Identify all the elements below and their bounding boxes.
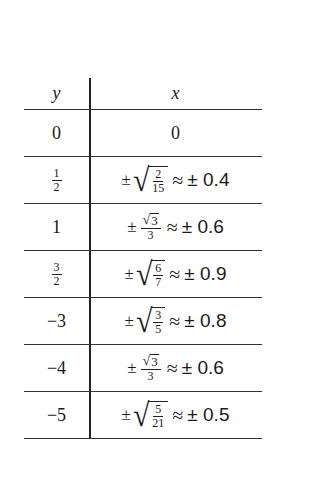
- y-value: 0: [24, 123, 89, 144]
- sqrt-expression: √521: [133, 400, 168, 430]
- x-value: ± √521 ≈ ± 0.5: [89, 400, 262, 430]
- value-table: y x 0 0 12 ± √215 ≈ ± 0.4 1 ± √33 ≈ ± 0.…: [24, 78, 262, 439]
- header-x: x: [89, 83, 262, 104]
- table-row: −5 ± √521 ≈ ± 0.5: [24, 392, 262, 439]
- y-value: 1: [24, 217, 89, 238]
- header-y: y: [24, 83, 89, 104]
- y-value: 32: [24, 261, 89, 287]
- table-row: 12 ± √215 ≈ ± 0.4: [24, 157, 262, 204]
- table-row: −3 ± √35 ≈ ± 0.8: [24, 298, 262, 345]
- fraction-expression: √33: [141, 354, 161, 382]
- sqrt-expression: √67: [136, 259, 165, 289]
- table-row: −4 ± √33 ≈ ± 0.6: [24, 345, 262, 392]
- x-value: ± √35 ≈ ± 0.8: [89, 306, 262, 336]
- table-row: 0 0: [24, 110, 262, 157]
- sqrt-expression: √215: [133, 165, 168, 195]
- header-row: y x: [24, 78, 262, 110]
- x-value: ± √33 ≈ ± 0.6: [89, 213, 262, 241]
- x-value: ± √67 ≈ ± 0.9: [89, 259, 262, 289]
- table-row: 1 ± √33 ≈ ± 0.6: [24, 204, 262, 251]
- x-value: 0: [89, 123, 262, 144]
- y-value: 12: [24, 167, 89, 193]
- table-row: 32 ± √67 ≈ ± 0.9: [24, 251, 262, 298]
- x-value: ± √33 ≈ ± 0.6: [89, 354, 262, 382]
- fraction-expression: √33: [141, 213, 161, 241]
- y-value: −4: [24, 358, 89, 379]
- y-value: −3: [24, 311, 89, 332]
- x-value: ± √215 ≈ ± 0.4: [89, 165, 262, 195]
- sqrt-expression: √35: [136, 306, 165, 336]
- y-value: −5: [24, 405, 89, 426]
